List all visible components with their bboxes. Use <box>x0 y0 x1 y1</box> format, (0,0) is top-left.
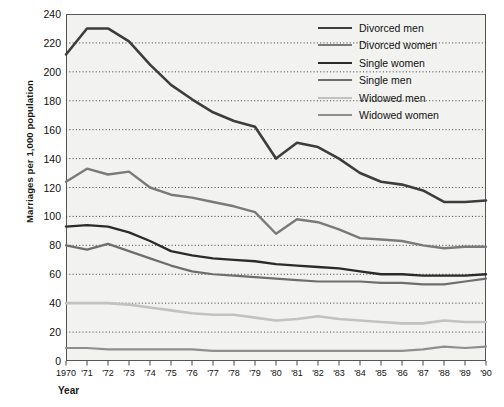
y-tick-label: 100 <box>43 210 61 222</box>
x-tick-label: '88 <box>438 368 450 378</box>
legend-item[interactable]: Widowed women <box>318 107 439 125</box>
legend-swatch-icon <box>318 44 352 46</box>
legend-label: Widowed women <box>359 110 439 121</box>
x-tick-label: '84 <box>354 368 366 378</box>
legend-swatch-icon <box>318 79 352 81</box>
y-tick-label: 60 <box>49 268 61 280</box>
legend-item[interactable]: Divorced men <box>318 19 439 37</box>
series-line-4 <box>66 303 486 323</box>
y-axis-title: Marriages per 1,000 population <box>24 27 35 277</box>
x-tick-label: '90 <box>480 368 492 378</box>
x-tick-label: '74 <box>144 368 156 378</box>
y-tick-label: 40 <box>49 297 61 309</box>
x-tick-label: '73 <box>123 368 135 378</box>
y-tick-label: 20 <box>49 326 61 338</box>
legend-label: Divorced women <box>359 40 437 51</box>
x-tick-label: '87 <box>417 368 429 378</box>
y-tick-label: 240 <box>43 8 61 20</box>
y-tick-label: 200 <box>43 66 61 78</box>
legend-swatch-icon <box>318 62 352 64</box>
x-tick-label: '79 <box>249 368 261 378</box>
x-tick-label: '82 <box>312 368 324 378</box>
y-tick-label: 180 <box>43 95 61 107</box>
y-tick-label: 120 <box>43 182 61 194</box>
chart-figure: Marriages per 1,000 population Year 0204… <box>0 0 504 407</box>
legend-label: Single men <box>359 75 412 86</box>
legend-item[interactable]: Single women <box>318 54 439 72</box>
series-line-5 <box>66 347 486 351</box>
x-tick-label: '86 <box>396 368 408 378</box>
x-tick-label: '78 <box>228 368 240 378</box>
chart-legend: Divorced menDivorced womenSingle womenSi… <box>318 17 439 124</box>
legend-item[interactable]: Divorced women <box>318 37 439 55</box>
y-tick-label: 80 <box>49 239 61 251</box>
legend-label: Divorced men <box>359 23 424 34</box>
x-tick-label: '80 <box>270 368 282 378</box>
legend-label: Single women <box>359 58 425 69</box>
y-tick-label: 140 <box>43 153 61 165</box>
legend-swatch-icon <box>318 97 352 99</box>
legend-item[interactable]: Widowed men <box>318 89 439 107</box>
legend-item[interactable]: Single men <box>318 72 439 90</box>
y-tick-label: 0 <box>55 355 61 367</box>
x-tick-label: '71 <box>81 368 93 378</box>
x-tick-label: '85 <box>375 368 387 378</box>
y-tick-label: 220 <box>43 37 61 49</box>
x-tick-label: '89 <box>459 368 471 378</box>
legend-swatch-icon <box>318 114 352 116</box>
x-tick-label: '83 <box>333 368 345 378</box>
x-tick-label: '72 <box>102 368 114 378</box>
x-tick-label: '75 <box>165 368 177 378</box>
x-axis-title: Year <box>58 385 79 396</box>
x-tick-label: '76 <box>186 368 198 378</box>
series-line-1 <box>66 169 486 249</box>
y-tick-label: 160 <box>43 124 61 136</box>
legend-label: Widowed men <box>359 93 426 104</box>
x-tick-label: '77 <box>207 368 219 378</box>
x-tick-label: 1970 <box>56 368 76 378</box>
legend-swatch-icon <box>318 27 352 29</box>
x-tick-label: '81 <box>291 368 303 378</box>
